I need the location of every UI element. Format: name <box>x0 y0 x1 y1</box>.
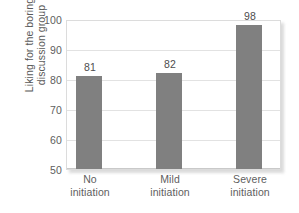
x-label-line-1: No <box>52 173 128 186</box>
bar-mild-initiation[interactable] <box>156 73 182 169</box>
x-label-severe-initiation: Severe initiation <box>212 173 288 199</box>
y-tick-label: 90 <box>50 45 62 56</box>
bar-value-label: 98 <box>224 11 276 22</box>
y-tick-label: 100 <box>44 15 62 26</box>
x-label-line-2: initiation <box>132 186 208 199</box>
bar-chart: Liking for the boring discussion group 5… <box>0 0 299 213</box>
bar-value-label: 82 <box>144 59 196 70</box>
x-label-line-1: Mild <box>132 173 208 186</box>
x-label-line-1: Severe <box>212 173 288 186</box>
bar-severe-initiation[interactable] <box>236 25 262 169</box>
bar-value-label: 81 <box>64 62 116 73</box>
caption-remnant <box>6 203 76 210</box>
y-axis-title-line-1: Liking for the boring <box>23 0 36 92</box>
x-label-no-initiation: No initiation <box>52 173 128 199</box>
y-tick-label: 70 <box>50 105 62 116</box>
plot-area: 81 82 98 <box>66 20 281 170</box>
x-label-line-2: initiation <box>212 186 288 199</box>
y-tick-label: 80 <box>50 75 62 86</box>
x-label-line-2: initiation <box>52 186 128 199</box>
x-label-mild-initiation: Mild initiation <box>132 173 208 199</box>
bar-no-initiation[interactable] <box>76 76 102 169</box>
y-tick-label: 60 <box>50 135 62 146</box>
x-axis-category-labels: No initiation Mild initiation Severe ini… <box>66 173 281 207</box>
